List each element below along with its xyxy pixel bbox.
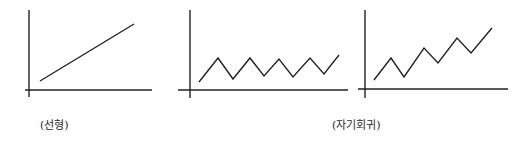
chart-autoregressive: [358, 10, 508, 98]
series-line: [374, 28, 492, 80]
series-line: [199, 55, 339, 82]
caption-autoregressive: (자기회귀): [332, 120, 381, 131]
chart-stationary: [178, 10, 348, 98]
chart-linear: [25, 10, 152, 97]
diagram-canvas: [0, 0, 526, 141]
caption-linear: (선형): [40, 120, 69, 131]
series-line: [40, 24, 134, 81]
